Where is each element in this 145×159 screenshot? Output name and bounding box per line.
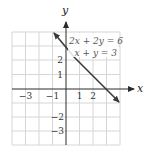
x-tick-label: 2 — [90, 91, 96, 101]
x-tick-label: −3 — [19, 91, 33, 101]
y-tick-label: −3 — [51, 126, 65, 136]
y-axis-label: y — [61, 4, 69, 17]
x-tick-label: 1 — [77, 91, 83, 101]
equation-label-2: x + y = 3 — [75, 48, 118, 58]
y-tick-label: 2 — [57, 55, 63, 65]
x-tick-label: −1 — [46, 91, 59, 101]
y-tick-label: 1 — [57, 70, 63, 80]
line-graph: x y 2x + 2y = 6 x + y = 3 −3 −1 1 2 2 1 … — [0, 0, 145, 159]
x-axis-label: x — [137, 82, 144, 95]
equation-label-1: 2x + 2y = 6 — [68, 36, 123, 46]
y-tick-label: −2 — [51, 112, 64, 122]
